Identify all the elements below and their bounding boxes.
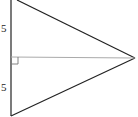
- upper-right-side: [17, 0, 135, 58]
- triangle-diagram: 5 5: [0, 0, 138, 117]
- label-lower-segment: 5: [1, 81, 7, 93]
- right-angle-marker: [11, 57, 18, 64]
- lower-right-side: [11, 58, 135, 116]
- label-upper-segment: 5: [1, 22, 7, 34]
- altitude-line: [11, 57, 135, 58]
